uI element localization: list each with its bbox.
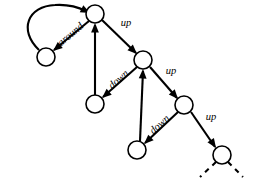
node-top[interactable] (86, 5, 104, 23)
node-mid-right[interactable] (175, 96, 193, 114)
node-mid-upper[interactable] (134, 51, 152, 69)
edge-up-lowermid-to-mid (140, 71, 143, 141)
diagram-canvas: aroundupdownupdownup (0, 0, 259, 184)
edge-label-down: down (147, 112, 171, 135)
edge-dashed-stub-right (228, 162, 243, 177)
edge-label-up: up (121, 17, 132, 28)
node-left[interactable] (37, 48, 55, 66)
edge-label-layer: aroundupdownupdownup (55, 17, 216, 135)
edge-label-down: down (106, 68, 130, 91)
edge-label-up: up (166, 65, 177, 76)
edge-label-around: around (55, 20, 86, 48)
edge-up-midleft-to-top-arrowhead (91, 23, 99, 33)
node-layer (37, 5, 231, 164)
node-mid-left[interactable] (86, 95, 104, 113)
edge-up-lowermid-to-mid-arrowhead (139, 69, 147, 79)
edge-label-up: up (206, 111, 217, 122)
node-bottom-right[interactable] (213, 146, 231, 164)
node-lower-mid[interactable] (128, 141, 146, 159)
directed-graph: aroundupdownupdownup (0, 0, 259, 184)
edge-dashed-stub-left (200, 162, 216, 177)
